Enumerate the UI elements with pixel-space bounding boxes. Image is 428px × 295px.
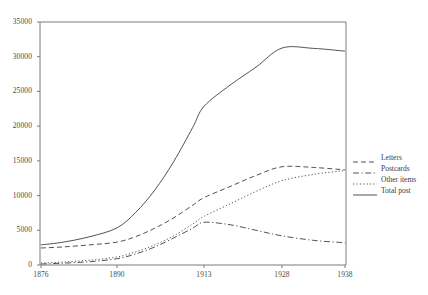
x-tick-label: 1913	[184, 270, 224, 279]
legend-swatch-icon	[352, 153, 378, 163]
y-tick-label: 25000	[0, 86, 32, 95]
chart-figure: 05000100001500020000250003000035000 1876…	[0, 0, 428, 295]
legend-label: Total post	[381, 186, 411, 196]
x-tick-label: 1928	[262, 270, 302, 279]
legend-swatch-icon	[352, 164, 378, 174]
y-tick-label: 15000	[0, 156, 32, 165]
x-tick-label: 1890	[97, 270, 137, 279]
legend-swatch-icon	[352, 175, 378, 185]
y-tick-label: 20000	[0, 121, 32, 130]
chart-legend: LettersPostcardsOther itemsTotal post	[352, 152, 426, 196]
y-tick-label: 35000	[0, 17, 32, 26]
legend-label: Other items	[381, 175, 416, 185]
y-tick-label: 5000	[0, 225, 32, 234]
legend-item-other-items[interactable]: Other items	[352, 174, 426, 185]
legend-item-letters[interactable]: Letters	[352, 152, 426, 163]
x-tick-label: 1876	[21, 270, 61, 279]
legend-label: Letters	[381, 153, 402, 163]
series-line-total-post	[41, 47, 345, 245]
legend-item-postcards[interactable]: Postcards	[352, 163, 426, 174]
data-series-group	[41, 47, 345, 264]
y-tick-label: 30000	[0, 52, 32, 61]
y-tick-label: 0	[0, 260, 32, 269]
legend-swatch-icon	[352, 186, 378, 196]
legend-item-total-post[interactable]: Total post	[352, 185, 426, 196]
axis-frame	[40, 22, 346, 265]
series-line-letters	[41, 166, 345, 248]
y-tick-label: 10000	[0, 191, 32, 200]
legend-label: Postcards	[381, 164, 410, 174]
series-line-other-items	[41, 171, 345, 263]
series-line-postcards	[41, 222, 345, 264]
plot-canvas	[0, 0, 428, 295]
x-tick-label: 1938	[325, 270, 365, 279]
